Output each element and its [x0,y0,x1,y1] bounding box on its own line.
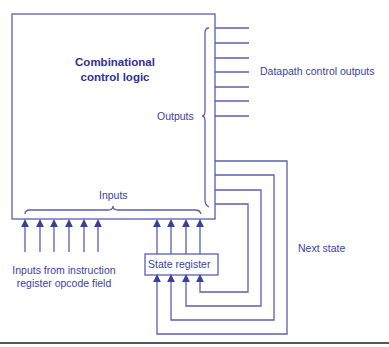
main-block-title-line2: control logic [60,70,170,85]
outputs-label: Outputs [157,110,194,123]
inputs-label: Inputs [99,189,128,202]
state-to-logic-arrows [157,223,200,254]
next-state-feedback-loops [157,161,287,334]
state-register-label: State register [148,258,210,271]
opcode-input-arrows [25,223,98,252]
datapath-outputs-label: Datapath control outputs [260,65,374,78]
next-state-label: Next state [298,242,345,255]
main-block-title: Combinational control logic [60,55,170,85]
opcode-inputs-label-line1: Inputs from instruction [8,264,120,277]
main-block-title-line1: Combinational [60,55,170,70]
opcode-inputs-label: Inputs from instruction register opcode … [8,264,120,290]
datapath-output-lines [215,28,249,116]
opcode-inputs-label-line2: register opcode field [8,277,120,290]
outputs-brace [202,28,209,207]
inputs-brace [25,206,201,214]
control-diagram [0,0,389,347]
